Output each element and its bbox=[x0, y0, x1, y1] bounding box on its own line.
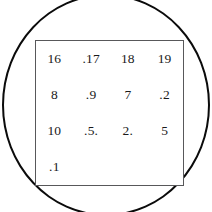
grid-cell-r3c4: 5 bbox=[146, 113, 183, 149]
grid-cell-r4c4 bbox=[146, 149, 183, 185]
grid-cell-r2c2: .9 bbox=[73, 77, 110, 113]
table-row: .1 bbox=[36, 149, 183, 185]
table-row: 10 .5. 2. 5 bbox=[36, 113, 183, 149]
table-row: 16 .17 18 19 bbox=[36, 41, 183, 77]
grid-cell-r2c3: 7 bbox=[110, 77, 147, 113]
grid-cell-r1c1: 16 bbox=[36, 41, 73, 77]
grid-cell-r4c3 bbox=[110, 149, 147, 185]
grid-cell-r1c2: .17 bbox=[73, 41, 110, 77]
grid-cell-r4c2 bbox=[73, 149, 110, 185]
table-row: 8 .9 7 .2 bbox=[36, 77, 183, 113]
grid-cell-r3c1: 10 bbox=[36, 113, 73, 149]
grid-cell-r3c3: 2. bbox=[110, 113, 147, 149]
rectangle-outline-shape: 16 .17 18 19 8 .9 7 .2 10 .5. 2. 5 bbox=[35, 40, 184, 186]
grid-cell-r1c3: 18 bbox=[110, 41, 147, 77]
grid-cell-r4c1: .1 bbox=[36, 149, 73, 185]
grid-cell-r1c4: 19 bbox=[146, 41, 183, 77]
grid-cell-r3c2: .5. bbox=[73, 113, 110, 149]
figure-canvas: 16 .17 18 19 8 .9 7 .2 10 .5. 2. 5 bbox=[0, 0, 212, 212]
number-grid: 16 .17 18 19 8 .9 7 .2 10 .5. 2. 5 bbox=[36, 41, 183, 185]
grid-cell-r2c4: .2 bbox=[146, 77, 183, 113]
grid-cell-r2c1: 8 bbox=[36, 77, 73, 113]
